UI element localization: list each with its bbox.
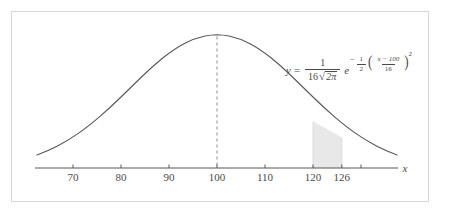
outer-power: 2 (409, 51, 413, 58)
tick-label-90: 90 (164, 171, 176, 183)
standardize-denominator: 16 (382, 64, 395, 73)
coefficient-numerator: 1 (317, 58, 328, 69)
exponent-group: − 1 2 ( x − 100 16 ) 2 (350, 56, 412, 73)
coefficient-fraction: 1 16√2π (305, 58, 340, 83)
exponent-sign: − (350, 56, 355, 64)
formula-lhs: y (286, 65, 291, 76)
one-half-fraction: 1 2 (357, 56, 367, 73)
coefficient-den-lead: 16 (308, 71, 318, 82)
tick-label-100: 100 (209, 171, 226, 183)
tick-label-80: 80 (116, 171, 128, 183)
sqrt-group: √2π (319, 71, 337, 83)
coefficient-denominator: 16√2π (305, 69, 340, 83)
tick-label-110: 110 (257, 171, 274, 183)
distribution-plot: 70 80 90 100 110 120 126 x (0, 0, 457, 217)
sqrt-radicand: 2π (325, 71, 337, 83)
standardize-fraction: x − 100 16 (374, 56, 402, 73)
one-half-denominator: 2 (357, 64, 367, 73)
tick-label-120: 120 (305, 171, 322, 183)
formula-row: y = 1 16√2π e − 1 2 ( x − 100 16 ) 2 (286, 58, 426, 83)
paren-open: ( (368, 54, 372, 69)
normal-curve (37, 35, 397, 155)
formula-equals: = (294, 65, 300, 76)
x-axis-label: x (402, 162, 408, 174)
standardize-numerator: x − 100 (374, 56, 402, 64)
tick-label-70: 70 (68, 171, 80, 183)
shaded-region (313, 122, 342, 168)
exp-base: e (344, 65, 349, 76)
tick-label-126: 126 (334, 171, 351, 183)
one-half-numerator: 1 (357, 56, 367, 64)
pdf-formula: y = 1 16√2π e − 1 2 ( x − 100 16 ) 2 (286, 58, 426, 92)
